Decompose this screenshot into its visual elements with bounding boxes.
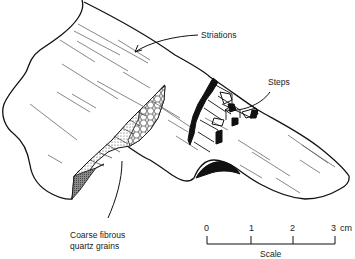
- quartz-fibre-region: [72, 86, 165, 199]
- scale-unit: cm: [340, 223, 352, 233]
- label-quartz-line2: quartz grains: [70, 241, 119, 251]
- slickenside-diagram: [0, 0, 355, 259]
- scale-tick-3: 3: [331, 223, 336, 233]
- scale-title: Scale: [260, 249, 281, 259]
- label-striations: Striations: [201, 30, 236, 40]
- label-quartz-line1: Coarse fibrous: [70, 230, 125, 240]
- striation-lines: [30, 24, 335, 193]
- rock-outline: [3, 0, 349, 199]
- step-features: [188, 78, 258, 178]
- scale-tick-1: 1: [249, 223, 254, 233]
- label-steps: Steps: [268, 77, 290, 87]
- scale-tick-2: 2: [290, 223, 295, 233]
- scale-bar: [207, 236, 335, 244]
- scale-tick-0: 0: [204, 223, 209, 233]
